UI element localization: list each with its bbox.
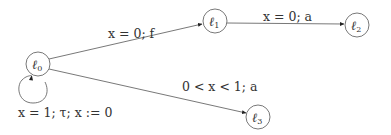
node-l1: ℓ1 xyxy=(203,9,227,33)
edge-label-self-loop: x = 1; τ; x := 0 xyxy=(18,105,112,120)
edge-label-l0-l3: 0 < x < 1; a xyxy=(182,79,258,94)
automaton-diagram: ℓ0 ℓ1 ℓ2 ℓ3 x = 0; f x = 0; a 0 < x < 1;… xyxy=(0,0,391,135)
edge-label-l1-l2: x = 0; a xyxy=(263,9,313,24)
edge-l0-self-loop-2 xyxy=(33,82,47,103)
node-l2: ℓ2 xyxy=(345,13,369,37)
edge-label-l0-l1: x = 0; f xyxy=(108,26,156,41)
node-l3: ℓ3 xyxy=(246,105,270,129)
node-l0: ℓ0 xyxy=(26,52,50,76)
